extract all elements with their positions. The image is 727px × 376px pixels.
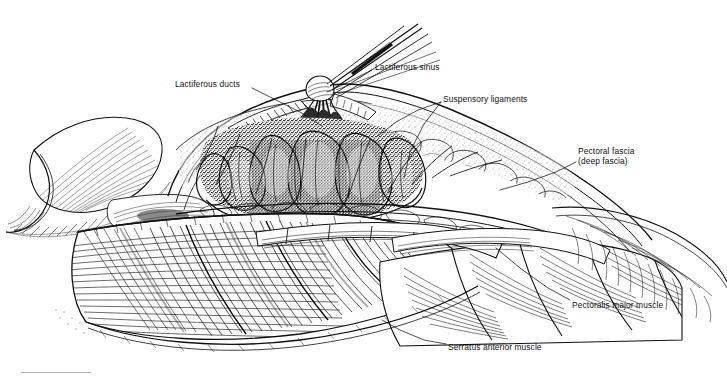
label-lactiferous-ducts: Lactiferous ducts xyxy=(175,79,240,89)
label-lactiferous-sinus: Lactiferous sinus xyxy=(375,62,440,72)
breast-anatomy-illustration xyxy=(0,0,727,376)
label-pectoral-fascia: Pectoral fascia (deep fascia) xyxy=(578,146,634,167)
label-serratus-anterior-muscle: Serratus anterior muscle xyxy=(448,342,542,352)
anatomical-figure: Lactiferous ductsLactiferous sinusSuspen… xyxy=(0,0,727,376)
label-suspensory-ligaments: Suspensory ligaments xyxy=(443,94,527,104)
label-pectoralis-major-muscle: Pectoralis major muscle xyxy=(572,300,663,310)
footer-rule xyxy=(21,372,91,373)
